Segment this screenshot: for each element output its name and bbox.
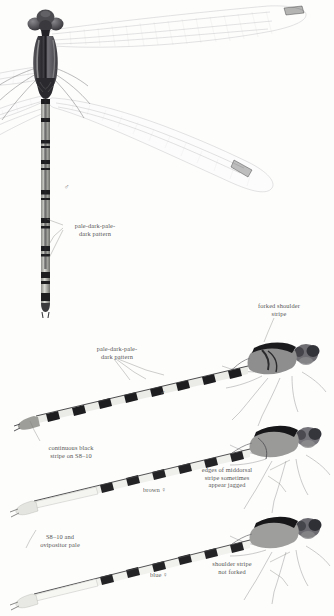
wing-group-right-lower xyxy=(49,98,273,192)
annotation-edges-of-middorsal-stripe: edges of middorsal stripe sometimes appe… xyxy=(186,466,268,489)
head-male-lateral xyxy=(294,344,320,365)
head-female-blue xyxy=(296,518,322,539)
thorax xyxy=(33,36,58,99)
abdomen xyxy=(41,99,50,318)
brown-female-label: brown ♀ xyxy=(143,486,166,494)
field-guide-plate: pale-dark-pale- dark pattern forked shou… xyxy=(0,0,334,616)
head-female-brown xyxy=(296,427,322,448)
male-symbol-mid: ♂ xyxy=(160,390,165,397)
annotation-continuous-black-stripe: continuous black stripe on S8–10 xyxy=(32,444,110,459)
annotation-shoulder-stripe-not-forked: shoulder stripe not forked xyxy=(196,560,268,575)
specimen-male-dorsal xyxy=(0,0,334,320)
wing-group-right xyxy=(47,6,306,47)
annotation-pale-dark-pale-dark-pattern-mid: pale-dark-pale- dark pattern xyxy=(86,345,148,360)
annotation-forked-shoulder-stripe: forked shoulder stripe xyxy=(244,302,314,317)
annotation-pale-dark-pale-dark-pattern-top: pale-dark-pale- dark pattern xyxy=(64,222,126,237)
blue-female-label: blue ♀ xyxy=(150,571,168,579)
annotation-s8-10-and-ovipositor-pale: S8–10 and ovipositor pale xyxy=(22,533,98,548)
specimen-female-blue xyxy=(0,490,334,616)
male-symbol-top: ♂ xyxy=(64,184,69,191)
